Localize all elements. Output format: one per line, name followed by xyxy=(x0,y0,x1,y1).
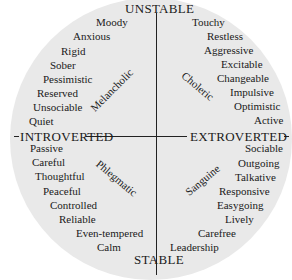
trait-unsociable: Unsociable xyxy=(33,101,82,113)
trait-touchy: Touchy xyxy=(192,16,225,28)
trait-pessimistic: Pessimistic xyxy=(43,73,93,85)
trait-calm: Calm xyxy=(97,241,121,253)
trait-thoughtful: Thoughtful xyxy=(35,170,85,182)
trait-carefree: Carefree xyxy=(198,227,236,239)
trait-responsive: Responsive xyxy=(219,185,270,197)
trait-reliable: Reliable xyxy=(59,213,96,225)
trait-talkative: Talkative xyxy=(235,171,276,183)
trait-easygoing: Easygoing xyxy=(217,199,263,211)
trait-sociable: Sociable xyxy=(245,142,283,154)
trait-careful: Careful xyxy=(32,156,65,168)
trait-optimistic: Optimistic xyxy=(234,100,280,112)
trait-rigid: Rigid xyxy=(61,45,85,57)
trait-changeable: Changeable xyxy=(217,72,269,84)
trait-restless: Restless xyxy=(207,30,243,42)
horizontal-axis-line-right xyxy=(157,136,187,137)
trait-sober: Sober xyxy=(50,59,76,71)
trait-even-tempered: Even-tempered xyxy=(76,227,143,239)
trait-passive: Passive xyxy=(30,142,63,154)
axis-label-unstable: UNSTABLE xyxy=(125,2,194,15)
trait-aggressive: Aggressive xyxy=(204,44,254,56)
vertical-axis-line xyxy=(156,13,157,275)
trait-outgoing: Outgoing xyxy=(238,157,280,169)
trait-lively: Lively xyxy=(225,213,254,225)
trait-active: Active xyxy=(254,114,283,126)
trait-anxious: Anxious xyxy=(73,30,110,42)
trait-moody: Moody xyxy=(96,16,128,28)
trait-peaceful: Peaceful xyxy=(43,185,81,197)
trait-leadership: Leadership xyxy=(170,241,219,253)
trait-reserved: Reserved xyxy=(37,87,78,99)
trait-quiet: Quiet xyxy=(29,115,53,127)
trait-controlled: Controlled xyxy=(50,199,97,211)
axis-tick-left xyxy=(14,136,19,137)
trait-excitable: Excitable xyxy=(221,58,263,70)
axis-label-stable: STABLE xyxy=(134,253,184,266)
trait-impulsive: Impulsive xyxy=(230,86,274,98)
